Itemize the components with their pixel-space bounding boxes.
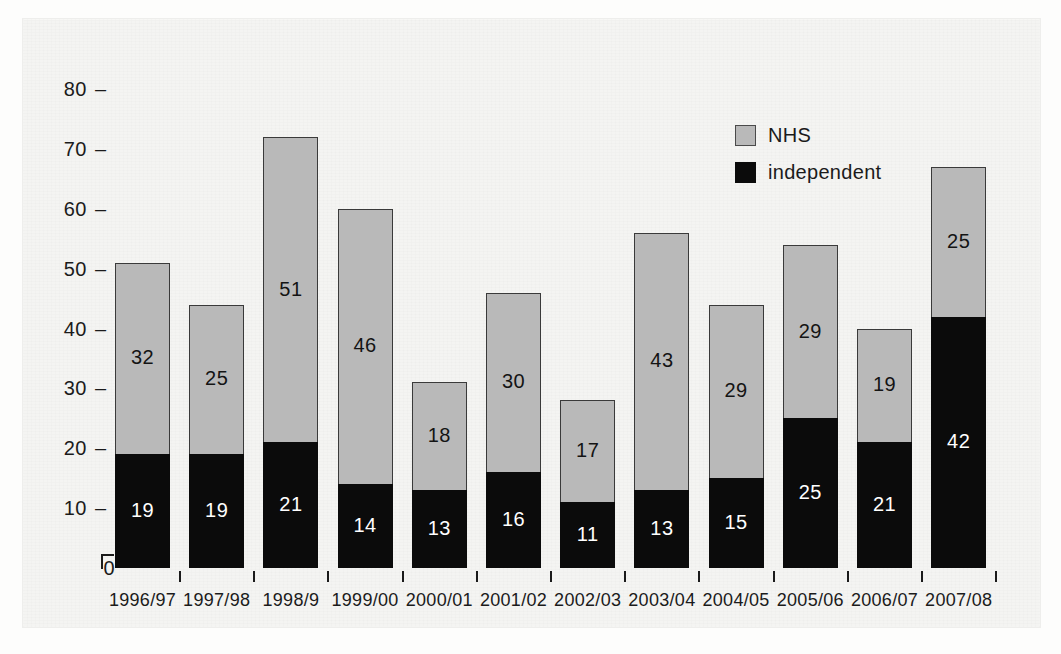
y-axis-tick-70: 70– (49, 137, 115, 160)
bar-segment-independent[interactable]: 16 (486, 472, 541, 568)
x-axis-baseline (107, 568, 1019, 569)
bar-value-label-independent: 21 (279, 493, 302, 516)
bar-segment-independent[interactable]: 11 (560, 502, 615, 568)
y-axis-tick-10: 10– (49, 497, 115, 520)
bar-1996-97[interactable]: 3219 (115, 263, 170, 568)
bar-value-label-independent: 11 (577, 523, 599, 546)
gray-square-icon (735, 125, 756, 146)
y-axis-tick-label: 0 (103, 557, 115, 579)
y-axis-tick-label: 60 (64, 197, 87, 219)
bar-segment-independent[interactable]: 13 (412, 490, 467, 568)
bar-segment-independent[interactable]: 19 (115, 454, 170, 568)
bar-value-label-nhs: 17 (576, 439, 599, 462)
bar-segment-independent[interactable]: 14 (338, 484, 393, 568)
bar-value-label-independent: 42 (947, 430, 970, 453)
bar-segment-independent[interactable]: 19 (189, 454, 244, 568)
x-axis-tick-2003-04 (698, 571, 700, 582)
bar-value-label-nhs: 46 (353, 334, 376, 357)
y-axis-tick-dash: – (95, 257, 115, 280)
y-axis-tick-label: 70 (64, 137, 87, 159)
bar-2002-03[interactable]: 1711 (560, 400, 615, 568)
y-axis-tick-dash: – (95, 78, 115, 101)
bar-segment-nhs[interactable]: 25 (189, 305, 244, 455)
bar-segment-nhs[interactable]: 46 (338, 209, 393, 484)
bar-value-label-independent: 15 (724, 511, 747, 534)
bar-value-label-nhs: 30 (502, 370, 525, 393)
bar-1999-00[interactable]: 4614 (338, 209, 393, 568)
y-axis-tick-dash: – (95, 377, 115, 400)
bar-segment-independent[interactable]: 15 (709, 478, 764, 568)
bar-value-label-independent: 21 (873, 493, 896, 516)
bar-segment-nhs[interactable]: 17 (560, 400, 615, 502)
x-axis-tick-1996-97 (179, 571, 181, 582)
bar-segment-nhs[interactable]: 25 (931, 167, 986, 317)
y-axis-tick-50: 50– (49, 257, 115, 280)
bar-value-label-nhs: 25 (205, 367, 228, 390)
y-axis-tick-dash: – (95, 497, 115, 520)
bar-value-label-independent: 25 (799, 481, 822, 504)
y-axis-tick-40: 40– (49, 317, 115, 340)
bar-value-label-nhs: 51 (279, 278, 302, 301)
y-axis-tick-30: 30– (49, 377, 115, 400)
x-axis-tick-1997-98 (253, 571, 255, 582)
bar-value-label-independent: 19 (131, 499, 154, 522)
bar-2007-08[interactable]: 2542 (931, 167, 986, 568)
bar-segment-nhs[interactable]: 29 (709, 305, 764, 479)
bar-segment-nhs[interactable]: 18 (412, 382, 467, 490)
y-axis-tick-label: 50 (64, 257, 87, 279)
x-axis-tick-2001-02 (550, 571, 552, 582)
x-axis-tick-2000-01 (476, 571, 478, 582)
bar-value-label-nhs: 19 (873, 373, 896, 396)
bar-segment-nhs[interactable]: 51 (263, 137, 318, 442)
bar-segment-nhs[interactable]: 29 (783, 245, 838, 419)
bar-1998-9[interactable]: 5121 (263, 137, 318, 568)
chart-legend: NHSindependent (735, 124, 881, 198)
bar-value-label-nhs: 32 (131, 346, 154, 369)
bar-2006-07[interactable]: 1921 (857, 329, 912, 568)
bar-segment-independent[interactable]: 21 (263, 442, 318, 568)
x-axis-tick-1999-00 (402, 571, 404, 582)
chart-figure: 010–20–30–40–50–60–70–80– 32191996/97251… (0, 0, 1061, 654)
y-axis-tick-label: 20 (64, 437, 87, 459)
bar-1997-98[interactable]: 2519 (189, 305, 244, 568)
y-axis-tick-label: 10 (64, 497, 87, 519)
bar-value-label-nhs: 43 (650, 349, 673, 372)
legend-item-independent[interactable]: independent (735, 161, 881, 184)
bar-2003-04[interactable]: 4313 (634, 233, 689, 568)
bar-value-label-nhs: 18 (428, 424, 451, 447)
bar-value-label-independent: 13 (650, 517, 673, 540)
bar-segment-independent[interactable]: 42 (931, 317, 986, 568)
bar-value-label-nhs: 29 (799, 320, 822, 343)
bar-segment-independent[interactable]: 25 (783, 418, 838, 568)
bar-2001-02[interactable]: 3016 (486, 293, 541, 568)
bar-segment-nhs[interactable]: 43 (634, 233, 689, 490)
bar-segment-nhs[interactable]: 32 (115, 263, 170, 455)
y-axis-tick-dash: – (95, 317, 115, 340)
bar-segment-independent[interactable]: 13 (634, 490, 689, 568)
x-axis-tick-2006-07 (921, 571, 923, 582)
y-axis-tick-label: 80 (64, 78, 87, 100)
y-axis-tick-dash: – (95, 437, 115, 460)
bar-2000-01[interactable]: 1813 (412, 382, 467, 568)
bar-value-label-independent: 13 (428, 517, 451, 540)
bar-segment-independent[interactable]: 21 (857, 442, 912, 568)
bar-2004-05[interactable]: 2915 (709, 305, 764, 568)
bar-value-label-independent: 19 (205, 499, 228, 522)
x-axis-tick-2007-08 (995, 571, 997, 582)
y-axis-tick-label: 30 (64, 377, 87, 399)
black-square-icon (735, 162, 756, 183)
y-axis-tick-20: 20– (49, 437, 115, 460)
y-axis-tick-60: 60– (49, 197, 115, 220)
bar-value-label-nhs: 25 (947, 230, 970, 253)
x-axis-tick-2004-05 (773, 571, 775, 582)
y-axis-tick-label: 40 (64, 317, 87, 339)
legend-item-label: independent (768, 161, 881, 184)
y-axis-tick-0: 0 (49, 557, 115, 580)
bar-2005-06[interactable]: 2925 (783, 245, 838, 568)
bar-segment-nhs[interactable]: 30 (486, 293, 541, 473)
y-axis-tick-dash: – (95, 137, 115, 160)
legend-item-nhs[interactable]: NHS (735, 124, 881, 147)
bar-value-label-independent: 14 (353, 514, 376, 537)
bar-segment-nhs[interactable]: 19 (857, 329, 912, 443)
bar-value-label-independent: 16 (502, 508, 525, 531)
